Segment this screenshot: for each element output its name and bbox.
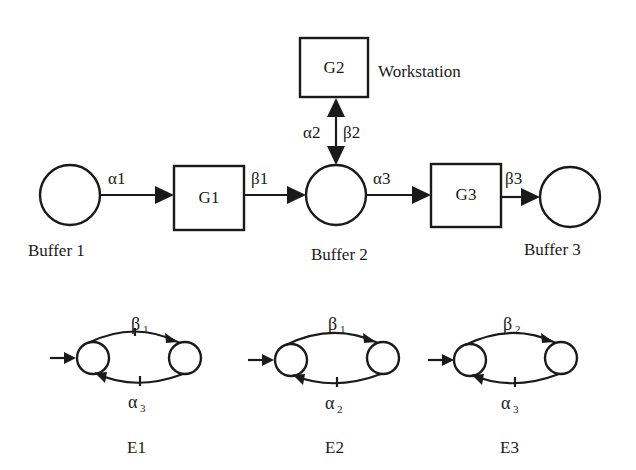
arrowhead-icon bbox=[287, 186, 306, 204]
edge-label-beta2: β2 bbox=[343, 123, 360, 142]
buffer-2-label: Buffer 2 bbox=[311, 245, 368, 264]
e1-bottom-event: α bbox=[128, 392, 138, 412]
edge-label-alpha3: α3 bbox=[373, 169, 390, 188]
e1-top-sub: 1 bbox=[143, 323, 149, 335]
arrowhead-icon bbox=[293, 374, 305, 385]
arrowhead-icon bbox=[363, 333, 376, 343]
e3-label: E3 bbox=[500, 438, 519, 457]
automaton-e1: β 1 α 3 E1 bbox=[50, 314, 201, 457]
edge-alpha3: α3 bbox=[366, 169, 431, 204]
machine-g3-node: G3 bbox=[431, 164, 501, 227]
buffer-1-node: Buffer 1 bbox=[28, 165, 100, 260]
buffer-2-node: Buffer 2 bbox=[306, 165, 368, 264]
machine-g1-node: G1 bbox=[174, 166, 244, 230]
e3-bottom-sub: 3 bbox=[513, 403, 519, 415]
workstation-label: Workstation bbox=[378, 62, 461, 81]
machine-g3-label: G3 bbox=[456, 185, 477, 204]
e2-label: E2 bbox=[325, 438, 344, 457]
arrowhead-icon bbox=[472, 374, 484, 385]
arrowhead-icon bbox=[95, 372, 107, 383]
automaton-e2: β 1 α 2 E2 bbox=[248, 314, 399, 457]
edge-beta3: β3 bbox=[501, 169, 540, 206]
e3-top-event: β bbox=[503, 314, 512, 334]
e2-bottom-sub: 2 bbox=[337, 403, 343, 415]
edge-label-alpha1: α1 bbox=[108, 169, 125, 188]
buffer-1-label: Buffer 1 bbox=[28, 241, 85, 260]
machine-g1-label: G1 bbox=[199, 188, 220, 207]
edge-beta1: β1 bbox=[244, 169, 306, 204]
initial-arrow-icon bbox=[64, 352, 76, 364]
buffer-3-node: Buffer 3 bbox=[524, 167, 600, 259]
edge-alpha1: α1 bbox=[100, 169, 174, 204]
arrowhead-icon bbox=[155, 186, 174, 204]
machine-g2-node: G2 Workstation bbox=[300, 38, 461, 97]
automaton-e3: β 2 α 3 E3 bbox=[428, 314, 577, 457]
arrowhead-icon bbox=[521, 188, 540, 206]
e3-top-sub: 2 bbox=[515, 323, 521, 335]
machine-g2-label: G2 bbox=[324, 58, 345, 77]
e1-label: E1 bbox=[127, 438, 146, 457]
e2-top-event: β bbox=[328, 314, 337, 334]
arrowhead-icon bbox=[541, 333, 554, 343]
e3-bottom-event: α bbox=[501, 393, 511, 413]
initial-arrow-icon bbox=[442, 354, 454, 366]
buffer-3-label: Buffer 3 bbox=[524, 240, 581, 259]
initial-arrow-icon bbox=[262, 354, 274, 366]
arrowhead-icon bbox=[165, 333, 178, 343]
arrowhead-icon bbox=[412, 186, 431, 204]
edge-label-alpha2: α2 bbox=[303, 123, 320, 142]
arrowhead-up-icon bbox=[327, 98, 345, 117]
e1-bottom-sub: 3 bbox=[140, 402, 146, 414]
e2-bottom-event: α bbox=[325, 393, 335, 413]
e2-top-sub: 1 bbox=[340, 323, 346, 335]
edge-alpha2-beta2: α2 β2 bbox=[303, 98, 360, 165]
edge-label-beta1: β1 bbox=[251, 169, 268, 188]
arrowhead-down-icon bbox=[327, 146, 345, 165]
manufacturing-diagram: Buffer 1 α1 G1 β1 Buffer 2 G2 Workstatio… bbox=[0, 0, 636, 470]
edge-label-beta3: β3 bbox=[505, 169, 522, 188]
e1-top-event: β bbox=[131, 314, 140, 334]
